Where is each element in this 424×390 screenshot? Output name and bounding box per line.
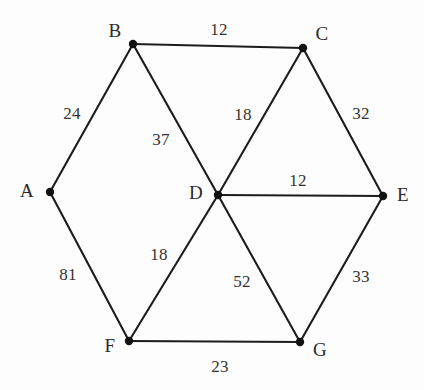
edge-weight-d-e: 12 <box>289 172 307 189</box>
graph-node-b <box>129 40 137 48</box>
node-label-a: A <box>20 181 34 200</box>
node-layer <box>46 40 387 346</box>
node-label-c: C <box>316 24 329 43</box>
graph-edge-d-e <box>218 195 383 196</box>
edge-weight-c-e: 32 <box>352 105 370 122</box>
node-label-g: G <box>313 340 327 359</box>
edge-weight-e-g: 33 <box>352 268 370 285</box>
graph-edge-f-g <box>129 341 300 342</box>
graph-edge-e-g <box>300 196 383 342</box>
graph-edge-d-f <box>129 195 218 341</box>
edge-weight-c-d: 18 <box>234 106 252 123</box>
edge-weight-b-d: 37 <box>152 131 170 148</box>
node-label-e: E <box>397 185 409 204</box>
graph-node-g <box>296 338 304 346</box>
graph-diagram: 2412371832128118523323ABCDEFG <box>0 0 424 390</box>
node-label-f: F <box>105 336 116 355</box>
graph-canvas-svg <box>0 0 424 390</box>
node-label-b: B <box>109 21 122 40</box>
graph-edge-c-e <box>303 48 383 196</box>
graph-node-a <box>46 188 54 196</box>
graph-node-e <box>379 192 387 200</box>
edge-weight-d-g: 52 <box>233 273 251 290</box>
graph-node-f <box>125 337 133 345</box>
graph-edge-b-d <box>133 44 218 195</box>
graph-node-d <box>214 191 222 199</box>
edge-weight-f-g: 23 <box>211 358 229 375</box>
edge-weight-b-c: 12 <box>210 21 228 38</box>
graph-edge-b-c <box>133 44 303 48</box>
graph-edge-d-g <box>218 195 300 342</box>
node-label-d: D <box>189 183 203 202</box>
edge-weight-a-b: 24 <box>63 105 81 122</box>
edge-weight-d-f: 18 <box>150 246 168 263</box>
edge-weight-a-f: 81 <box>59 266 77 283</box>
graph-node-c <box>299 44 307 52</box>
